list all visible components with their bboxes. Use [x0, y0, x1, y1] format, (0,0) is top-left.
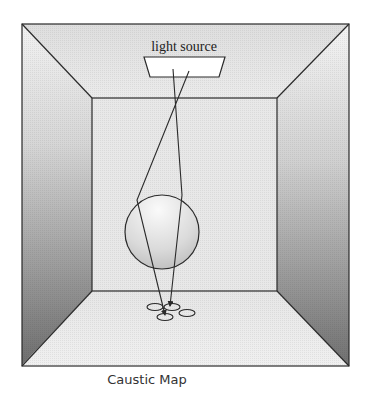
light-source-panel: [144, 57, 225, 77]
light-source-label: light source: [151, 39, 217, 54]
glass-sphere: [125, 195, 199, 269]
figure-caption: Caustic Map: [0, 372, 294, 387]
light-source: light source: [144, 39, 225, 77]
caustic-map-diagram: light source: [0, 0, 365, 408]
